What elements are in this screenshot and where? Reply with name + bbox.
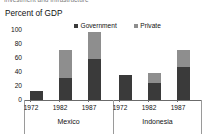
legend-swatch-government-icon — [74, 24, 78, 28]
bar-segment-government — [59, 78, 72, 100]
x-axis-tick-labels: 1972 1982 1987 1972 1982 1987 — [24, 103, 202, 113]
y-tick-80: 80 — [1, 40, 22, 47]
bar-mexico-1972 — [30, 91, 43, 100]
x-tickmark-3 — [119, 100, 120, 102]
bar-segment-private — [59, 50, 72, 78]
bar-indonesia-1982 — [148, 73, 161, 99]
y-tick-20: 20 — [1, 82, 22, 89]
x-tick-mexico-1982: 1982 — [46, 103, 74, 112]
y-tick-40: 40 — [1, 68, 22, 75]
x-tickmark-1 — [59, 100, 60, 102]
clipped-heading-text: Investment and Infrastructure — [4, 0, 154, 3]
y-tick-60: 60 — [1, 54, 22, 61]
x-tickmark-0 — [30, 100, 31, 102]
legend-swatch-private-icon — [134, 24, 138, 28]
chart-plot-area — [24, 29, 202, 100]
bar-mexico-1982 — [59, 50, 72, 100]
x-tick-indonesia-1987: 1987 — [164, 103, 192, 112]
group-label-indonesia: Indonesia — [113, 117, 202, 127]
bar-segment-government — [88, 59, 101, 99]
group-label-mexico: Mexico — [24, 117, 113, 127]
x-tick-mexico-1987: 1987 — [75, 103, 103, 112]
y-tick-0: 0 — [1, 96, 22, 103]
chart-figure: Investment and Infrastructure Percent of… — [0, 0, 209, 136]
bar-mexico-1987 — [88, 32, 101, 99]
bar-segment-government — [177, 67, 190, 100]
bar-segment-private — [88, 32, 101, 59]
group-labels: Mexico Indonesia — [24, 117, 202, 129]
x-tick-indonesia-1972: 1972 — [106, 103, 134, 112]
y-axis-tick-labels: 100 80 60 40 20 0 — [0, 0, 22, 136]
x-tick-mexico-1972: 1972 — [17, 103, 45, 112]
y-tick-100: 100 — [1, 26, 22, 33]
x-tickmark-4 — [148, 100, 149, 102]
bar-indonesia-1972 — [119, 75, 132, 99]
x-tickmark-5 — [177, 100, 178, 102]
bar-segment-government — [119, 75, 132, 99]
x-tick-indonesia-1982: 1982 — [135, 103, 163, 112]
bar-segment-private — [148, 73, 161, 83]
bar-indonesia-1987 — [177, 50, 190, 100]
x-tickmark-2 — [88, 100, 89, 102]
bar-segment-government — [30, 91, 43, 100]
bar-segment-private — [177, 50, 190, 67]
bar-segment-government — [148, 83, 161, 99]
